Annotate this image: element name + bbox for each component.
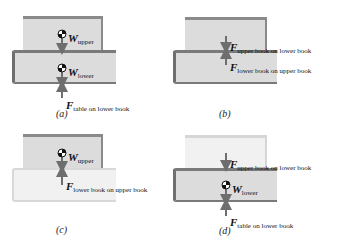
label-w-lower: Wlower (232, 180, 258, 197)
subscript: upper (78, 38, 94, 46)
label-f-table: Ftable on lower book (66, 96, 129, 113)
subscript: lower (78, 72, 94, 80)
panel-d: Fupper book on lower book Wlower Ftable … (171, 123, 343, 247)
label-f-upper-on-lower: Fupper book on lower book (230, 155, 311, 172)
label-f-upper-on-lower: Fupper book on lower book (230, 38, 311, 55)
center-of-mass-icon (58, 30, 66, 38)
subscript: upper book on lower book (237, 47, 311, 55)
center-of-mass-icon (58, 64, 66, 72)
subscript: upper book on lower book (237, 164, 311, 172)
caption-b: (b) (219, 108, 231, 119)
label-w-lower: Wlower (68, 63, 94, 80)
caption-d: (d) (219, 225, 231, 236)
subscript: table on lower book (73, 105, 129, 113)
label-f-lower-on-upper: Flower book on upper book (66, 177, 147, 194)
label-w-upper: Wupper (68, 29, 94, 46)
symbol: W (68, 32, 78, 44)
panel-a: Wupper Wlower Ftable on lower book (a) (0, 0, 171, 123)
label-w-upper: Wupper (68, 148, 94, 165)
center-of-mass-icon (58, 149, 66, 157)
symbol: W (232, 183, 242, 195)
symbol: W (68, 151, 78, 163)
panel-b: Fupper book on lower book Flower book on… (171, 0, 343, 123)
panel-c: Wupper Flower book on upper book (c) (0, 123, 171, 247)
subscript: lower (242, 189, 258, 197)
label-f-table: Ftable on lower book (230, 213, 293, 230)
symbol: W (68, 66, 78, 78)
center-of-mass-icon (222, 181, 230, 189)
caption-a: (a) (56, 108, 68, 119)
subscript: lower book on upper book (237, 67, 311, 75)
label-f-lower-on-upper: Flower book on upper book (230, 58, 311, 75)
subscript: table on lower book (237, 222, 293, 230)
subscript: lower book on upper book (73, 186, 147, 194)
caption-c: (c) (56, 224, 67, 235)
subscript: upper (78, 157, 94, 165)
